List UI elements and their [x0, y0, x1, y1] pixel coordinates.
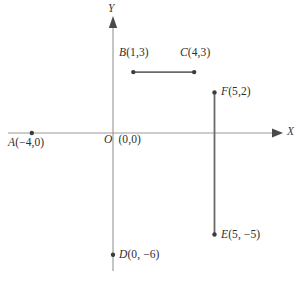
point-b-label: B(1,3) — [119, 46, 149, 58]
point-c-label: C(4,3) — [180, 46, 210, 58]
point-a-coords: (−4,0) — [15, 136, 44, 148]
point-f-coords: (5,2) — [228, 85, 251, 97]
point-d-dot — [111, 253, 115, 257]
point-a-dot — [30, 131, 34, 135]
x-axis-arrow-icon — [272, 129, 283, 138]
y-axis-arrow-icon — [109, 16, 117, 28]
point-e-dot — [212, 232, 216, 236]
point-a-label: A(−4,0) — [8, 136, 44, 148]
point-c-dot — [192, 70, 196, 74]
origin-coords: (0,0) — [112, 133, 141, 145]
point-c-coords: (4,3) — [188, 46, 211, 58]
point-f-dot — [212, 90, 216, 94]
origin-label: O(0,0) — [104, 133, 141, 145]
point-e-label: E(5, −5) — [221, 228, 260, 240]
x-axis-label: X — [287, 125, 294, 137]
point-d-label: D(0, −6) — [119, 248, 160, 260]
plot-canvas — [0, 0, 308, 281]
point-e-coords: (5, −5) — [228, 228, 260, 240]
point-c-letter: C — [180, 46, 188, 58]
point-f-label: F(5,2) — [221, 85, 251, 97]
y-axis-label: Y — [108, 2, 115, 14]
point-b-coords: (1,3) — [126, 46, 149, 58]
point-b-dot — [131, 70, 135, 74]
point-d-coords: (0, −6) — [127, 248, 159, 260]
